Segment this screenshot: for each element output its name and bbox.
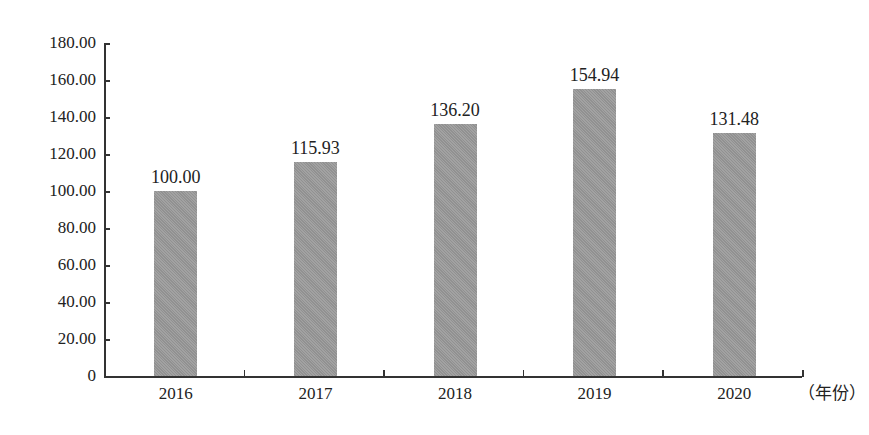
y-tick-label: 120.00 — [6, 145, 96, 163]
y-tick-label: 40.00 — [6, 293, 96, 311]
y-tick — [104, 339, 110, 341]
value-label: 154.94 — [550, 66, 640, 84]
y-tick — [104, 80, 110, 82]
y-tick — [104, 117, 110, 119]
bar-chart: 020.0040.0060.0080.00100.00120.00140.001… — [0, 0, 869, 435]
y-tick — [104, 154, 110, 156]
value-label: 131.48 — [689, 110, 779, 128]
x-axis — [104, 376, 802, 378]
x-tick — [383, 370, 385, 377]
value-label: 136.20 — [410, 101, 500, 119]
y-tick-label: 60.00 — [6, 256, 96, 274]
x-tick-label: 2020 — [694, 385, 774, 403]
bar-2017 — [294, 162, 337, 376]
y-axis — [104, 43, 106, 377]
value-label: 115.93 — [270, 139, 360, 157]
x-tick — [523, 370, 525, 377]
value-label: 100.00 — [131, 168, 221, 186]
y-tick-label: 160.00 — [6, 71, 96, 89]
x-tick — [662, 370, 664, 377]
y-tick-label: 80.00 — [6, 219, 96, 237]
x-tick-label: 2017 — [275, 385, 355, 403]
y-tick-label: 20.00 — [6, 330, 96, 348]
y-tick-label: 180.00 — [6, 34, 96, 52]
bar-2020 — [713, 133, 756, 376]
bar-2016 — [154, 191, 197, 376]
y-tick — [104, 376, 110, 378]
x-tick — [802, 370, 804, 377]
y-tick-label: 140.00 — [6, 108, 96, 126]
x-axis-unit-label: （年份） — [798, 385, 866, 403]
x-tick — [244, 370, 246, 377]
x-tick-label: 2019 — [555, 385, 635, 403]
x-tick-label: 2018 — [415, 385, 495, 403]
x-tick-label: 2016 — [136, 385, 216, 403]
bar-2018 — [434, 124, 477, 376]
y-tick — [104, 191, 110, 193]
y-tick — [104, 43, 110, 45]
y-tick — [104, 302, 110, 304]
y-tick-label: 0 — [6, 367, 96, 385]
y-tick — [104, 265, 110, 267]
bar-2019 — [573, 89, 616, 376]
y-tick — [104, 228, 110, 230]
y-tick-label: 100.00 — [6, 182, 96, 200]
